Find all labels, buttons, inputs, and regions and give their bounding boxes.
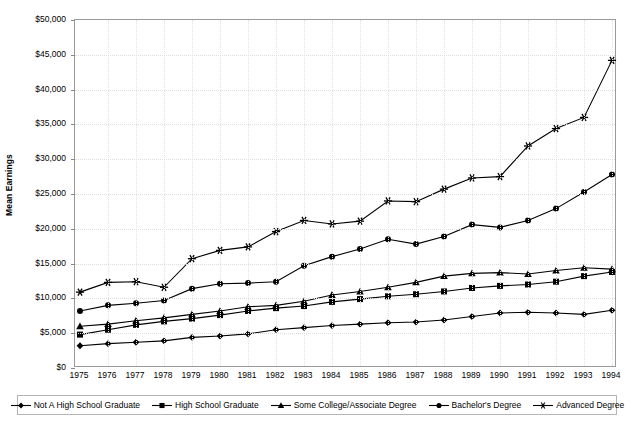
data-point-marker-square [160,402,165,407]
series-line [80,268,612,326]
plot-area [74,19,616,367]
series-some-college-associate-degree [76,264,616,329]
vertical-gridline [304,20,305,366]
legend-label: Some College/Associate Degree [294,400,417,410]
legend-swatch-triangle-icon [270,400,292,411]
legend-swatch-asterisk-icon [532,400,554,411]
vertical-gridline [276,20,277,366]
horizontal-gridline [75,298,615,299]
horizontal-gridline [75,55,615,56]
series-high-school-graduate [77,269,615,338]
x-axis-tick-label: 1992 [546,370,565,380]
data-point-marker-asterisk [76,289,84,296]
data-point-marker-diamond [77,342,84,349]
x-axis-tick-label: 1983 [294,370,313,380]
x-axis-tick-label: 1985 [350,370,369,380]
y-axis-title-label: Mean Earnings [4,154,14,216]
data-point-marker-circle [77,308,83,314]
data-point-marker-circle [436,402,441,407]
vertical-gridline [164,20,165,366]
vertical-gridline [360,20,361,366]
y-axis-tick-label: $25,000 [35,188,66,198]
horizontal-gridline [75,124,615,125]
y-axis-tick-label: $10,000 [35,292,66,302]
vertical-gridline [612,20,613,366]
y-axis-tickmark [71,368,75,369]
horizontal-gridline [75,229,615,230]
y-axis-tick-label: $30,000 [35,153,66,163]
x-axis-tick-label: 1976 [98,370,117,380]
vertical-gridline [192,20,193,366]
x-axis-tick-label: 1988 [434,370,453,380]
horizontal-gridline [75,159,615,160]
y-axis-tick-label: $50,000 [35,14,66,24]
x-axis-tick-label: 1984 [322,370,341,380]
y-axis-tick-label: $0 [57,362,66,372]
horizontal-gridline [75,90,615,91]
chart-legend: Not A High School GraduateHigh School Gr… [17,395,617,415]
legend-swatch-square-icon [151,400,173,411]
horizontal-gridline [75,194,615,195]
x-axis-tick-label: 1993 [574,370,593,380]
legend-entry[interactable]: High School Graduate [151,400,259,411]
vertical-gridline [416,20,417,366]
legend-label: High School Graduate [175,400,259,410]
legend-label: Advanced Degree [556,400,624,410]
series-line [80,60,612,292]
y-axis-title: Mean Earnings [0,0,18,370]
y-axis-tick-label: $20,000 [35,223,66,233]
vertical-gridline [248,20,249,366]
horizontal-gridline [75,264,615,265]
data-point-marker-asterisk [540,402,547,408]
y-axis-tick-label: $5,000 [40,327,66,337]
x-axis-tick-label: 1986 [378,370,397,380]
y-axis-tick-label: $35,000 [35,118,66,128]
x-axis-tick-labels: 1975197619771978197919801981198219831984… [74,370,616,386]
x-axis-tick-label: 1982 [266,370,285,380]
y-axis-tick-labels: $50,000$45,000$40,000$35,000$30,000$25,0… [18,19,70,367]
legend-swatch-diamond-icon [10,400,32,411]
vertical-gridline [136,20,137,366]
series-advanced-degree [76,57,616,296]
y-axis-tick-label: $15,000 [35,258,66,268]
vertical-gridline [584,20,585,366]
x-axis-tick-label: 1978 [154,370,173,380]
x-axis-tick-label: 1991 [518,370,537,380]
series-not-a-high-school-graduate [77,307,616,349]
legend-entry[interactable]: Bachelor's Degree [428,400,522,411]
legend-entry[interactable]: Some College/Associate Degree [270,400,417,411]
x-axis-tick-label: 1977 [126,370,145,380]
x-axis-tick-label: 1990 [490,370,509,380]
x-axis-tick-label: 1975 [70,370,89,380]
horizontal-gridline [75,333,615,334]
vertical-gridline [444,20,445,366]
earnings-by-education-line-chart: Mean Earnings $50,000$45,000$40,000$35,0… [0,0,633,422]
x-axis-tick-label: 1979 [182,370,201,380]
vertical-gridline [220,20,221,366]
x-axis-tick-label: 1994 [602,370,621,380]
vertical-gridline [388,20,389,366]
vertical-gridline [556,20,557,366]
series-bachelor-s-degree [77,172,615,314]
legend-label: Bachelor's Degree [452,400,522,410]
vertical-gridline [472,20,473,366]
x-axis-tick-label: 1989 [462,370,481,380]
vertical-gridline [528,20,529,366]
series-line [80,310,612,345]
x-axis-tick-label: 1987 [406,370,425,380]
y-axis-tick-label: $40,000 [35,84,66,94]
legend-entry[interactable]: Not A High School Graduate [10,400,140,411]
data-point-marker-diamond [18,402,24,408]
legend-label: Not A High School Graduate [34,400,140,410]
y-axis-tick-label: $45,000 [35,49,66,59]
legend-swatch-circle-icon [428,400,450,411]
x-axis-tick-label: 1981 [238,370,257,380]
vertical-gridline [332,20,333,366]
vertical-gridline [500,20,501,366]
vertical-gridline [108,20,109,366]
y-axis-tickmark [71,20,75,21]
x-axis-tick-label: 1980 [210,370,229,380]
legend-entry[interactable]: Advanced Degree [532,400,624,411]
